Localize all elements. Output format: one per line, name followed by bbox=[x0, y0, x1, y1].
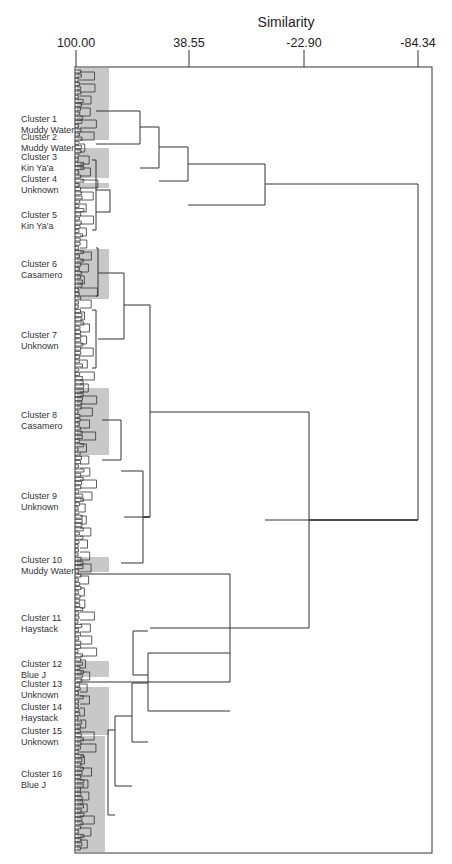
cluster-shade bbox=[77, 183, 109, 188]
leaf-branch bbox=[75, 326, 80, 329]
leaf-branch bbox=[75, 246, 78, 249]
leaf-branch bbox=[75, 624, 82, 627]
leaf-branch bbox=[75, 633, 80, 636]
leaf-branch bbox=[75, 599, 79, 602]
sub-branch bbox=[80, 348, 93, 356]
leaf-branch bbox=[75, 209, 84, 212]
leaf-branch bbox=[75, 473, 81, 476]
leaf-branch bbox=[75, 645, 80, 648]
leaf-branch bbox=[75, 549, 78, 552]
sub-branch bbox=[80, 612, 94, 620]
leaf-branch bbox=[75, 511, 79, 514]
leaf-branch bbox=[75, 612, 79, 615]
merge-link bbox=[96, 190, 110, 212]
leaf-branch bbox=[75, 225, 80, 228]
leaf-branch bbox=[75, 461, 81, 464]
sub-branch bbox=[80, 540, 88, 548]
leaf-branch bbox=[75, 637, 79, 640]
leaf-branch bbox=[75, 616, 79, 619]
merge-link bbox=[188, 164, 265, 205]
leaf-branch bbox=[75, 385, 84, 388]
leaf-branch bbox=[75, 217, 79, 220]
leaf-branch bbox=[75, 486, 81, 489]
leaf-branch bbox=[75, 360, 79, 363]
leaf-branch bbox=[75, 629, 79, 632]
sub-branch bbox=[80, 204, 86, 212]
leaf-branch bbox=[75, 196, 82, 199]
leaf-branch bbox=[75, 322, 84, 325]
leaf-branch bbox=[75, 230, 79, 233]
leaf-branch bbox=[75, 368, 79, 371]
leaf-branch bbox=[75, 641, 81, 644]
leaf-branch bbox=[75, 200, 80, 203]
leaf-branch bbox=[75, 141, 79, 144]
sub-branch bbox=[80, 636, 92, 644]
leaf-branch bbox=[75, 582, 80, 585]
sub-branch bbox=[80, 216, 93, 224]
leaf-branch bbox=[75, 658, 81, 661]
merge-link bbox=[92, 310, 96, 368]
leaf-branch bbox=[75, 540, 79, 543]
merge-link bbox=[133, 631, 148, 675]
merge-link bbox=[108, 730, 115, 815]
leaf-branch bbox=[75, 591, 78, 594]
leaf-branch bbox=[75, 381, 83, 384]
leaf-branch bbox=[75, 377, 83, 380]
leaf-branch bbox=[75, 490, 79, 493]
sub-branch bbox=[80, 528, 91, 536]
sub-branch bbox=[80, 504, 85, 512]
merge-link bbox=[265, 184, 418, 520]
merge-link bbox=[132, 683, 148, 742]
sub-branch bbox=[80, 240, 87, 248]
leaf-branch bbox=[75, 238, 80, 241]
cluster-shade bbox=[77, 148, 109, 178]
leaf-branch bbox=[75, 242, 80, 245]
leaf-branch bbox=[75, 503, 80, 506]
leaf-branch bbox=[75, 309, 80, 312]
sub-branch bbox=[80, 480, 97, 488]
leaf-branch bbox=[75, 456, 82, 459]
sub-branch bbox=[80, 600, 85, 608]
leaf-branch bbox=[75, 213, 81, 216]
leaf-branch bbox=[75, 204, 79, 207]
merge-link bbox=[159, 147, 188, 181]
sub-branch bbox=[80, 300, 91, 308]
axis-tick-marks bbox=[76, 50, 418, 67]
sub-branch bbox=[80, 372, 94, 380]
leaf-branch bbox=[75, 469, 84, 472]
cluster-shade bbox=[77, 388, 109, 455]
leaf-branch bbox=[75, 536, 83, 539]
leaf-branch bbox=[75, 339, 81, 342]
dendrogram-plot bbox=[0, 0, 452, 864]
leaf-branch bbox=[75, 465, 79, 468]
leaf-branch bbox=[75, 519, 82, 522]
leaf-branch bbox=[75, 351, 81, 354]
sub-branch bbox=[80, 228, 86, 236]
merge-link bbox=[140, 127, 159, 168]
leaf-branch bbox=[75, 532, 79, 535]
leaf-branch bbox=[75, 343, 83, 346]
leaf-branch bbox=[75, 595, 80, 598]
plot-frame bbox=[75, 67, 432, 853]
leaf-branch bbox=[75, 683, 80, 686]
merge-links bbox=[77, 111, 418, 815]
leaf-branch bbox=[75, 603, 80, 606]
leaf-branch bbox=[75, 494, 83, 497]
leaf-branch bbox=[75, 482, 82, 485]
leaf-branch bbox=[75, 301, 79, 304]
leaf-branch bbox=[75, 314, 82, 317]
merge-link bbox=[124, 305, 150, 517]
leaf-branch bbox=[75, 330, 81, 333]
leaf-branch bbox=[75, 356, 80, 359]
leaf-branch bbox=[75, 372, 80, 375]
merge-link bbox=[115, 716, 132, 786]
leaf-branch bbox=[75, 364, 82, 367]
leaf-branch bbox=[75, 188, 81, 191]
leaf-branch bbox=[75, 347, 81, 350]
